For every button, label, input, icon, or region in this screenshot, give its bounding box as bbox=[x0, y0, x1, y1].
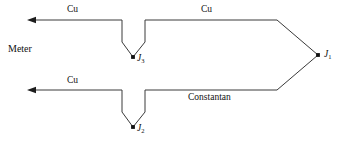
top-copper-wire-path bbox=[30, 20, 318, 57]
junction-nodes-group bbox=[131, 53, 320, 129]
arrowheads-group bbox=[27, 17, 36, 93]
junction-node-j2 bbox=[131, 125, 135, 129]
junction-label-j1: J1 bbox=[324, 50, 331, 60]
wire-group bbox=[30, 20, 318, 127]
junction-label-j3-sub: 3 bbox=[141, 57, 144, 64]
constantan-label: Constantan bbox=[188, 93, 231, 103]
junction-node-j3 bbox=[131, 55, 135, 59]
bottom-constantan-wire-path bbox=[30, 55, 318, 127]
arrow-left-icon-top bbox=[27, 17, 36, 23]
junction-label-j2: J2 bbox=[137, 124, 144, 134]
junction-label-j2-sub: 2 bbox=[141, 127, 144, 134]
cu-label-top-right: Cu bbox=[201, 5, 212, 15]
cu-label-bottom-left: Cu bbox=[67, 76, 78, 86]
thermocouple-diagram-canvas: Meter Cu Cu Cu Constantan J1 J3 J2 bbox=[0, 0, 340, 144]
circuit-svg bbox=[0, 0, 340, 144]
junction-label-j3: J3 bbox=[137, 54, 144, 64]
arrow-left-icon-bottom bbox=[27, 87, 36, 93]
meter-label: Meter bbox=[8, 44, 32, 54]
cu-label-top-left: Cu bbox=[67, 5, 78, 15]
junction-label-j1-sub: 1 bbox=[328, 53, 331, 60]
junction-node-j1 bbox=[316, 53, 320, 57]
